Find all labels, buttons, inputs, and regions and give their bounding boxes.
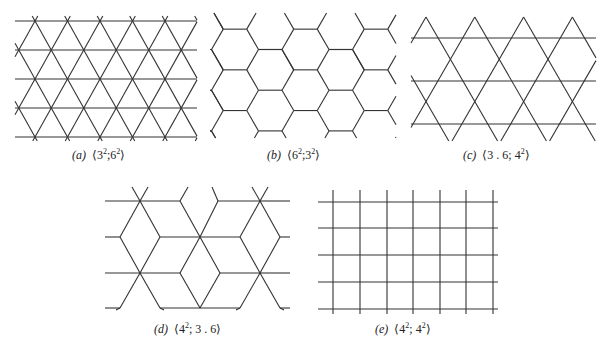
tiling-edge [212,90,224,110]
tiling-edge [260,187,268,201]
tiling-edge [15,16,38,57]
caption-d: (d) ⟨42; 3 . 6⟩ [154,322,221,337]
tiling-edge [282,131,286,138]
tiling-edge [325,131,329,138]
caption-b: (b) ⟨62;32⟩ [267,148,320,163]
tiling-edge [353,50,365,70]
tiling-edge [120,237,140,273]
tiling-edge [317,70,329,90]
tiling-edge [247,90,259,110]
tiling-edge [15,43,70,141]
tiling-edge [212,111,224,131]
tiling-edge [426,17,498,141]
tiling-edge [501,17,573,141]
tiling-edge [162,16,197,78]
tiling-edge [140,187,148,201]
caption-a-label: (a) [72,148,86,162]
tiling-edge [317,111,329,131]
tiling-edge [212,29,224,49]
tiling-edge [180,273,200,308]
tiling-edge [163,80,197,141]
caption-e-label: (e) [375,322,388,336]
tiling-edge [140,273,160,308]
tiling-edge [212,187,218,201]
tiling-edge [395,137,396,138]
tiling-edge [282,90,294,110]
caption-c: (c) ⟨3 . 6; 42⟩ [463,148,530,163]
tiling-edge [452,17,524,141]
tiling-edge [411,17,426,43]
tiling-edge [200,273,220,308]
tiling-edge [260,237,280,273]
tiling-edge [15,101,37,141]
caption-c-label: (c) [463,148,476,162]
tiling-edge [260,273,280,308]
tiling-edge [212,131,216,138]
tiling-edge [282,70,294,90]
tiling-edge [353,70,365,90]
tiling-a-triangular [15,16,197,141]
tiling-edge [388,15,396,29]
tiling-edge [140,237,160,273]
tiling-edge [353,111,365,131]
caption-b-label: (b) [267,148,281,162]
tiling-edge [247,111,259,131]
tiling-edge [212,70,224,90]
tiling-edge [120,201,140,237]
tiling-edge [120,273,140,308]
tiling-edge [388,96,396,110]
tiling-edge [550,61,596,141]
tiling-edge [317,29,329,49]
tiling-edge [411,76,449,141]
tiling-edge [282,29,294,49]
tiling-edge [475,17,547,141]
caption-a: (a) ⟨32;62⟩ [72,148,125,163]
tiling-edge [200,237,220,273]
tiling-edge [388,56,396,70]
tiling-edge [317,90,329,110]
tiling-edge [317,13,326,29]
caption-d-label: (d) [154,322,168,336]
tiling-edge [572,17,596,58]
tiling-e-square-grid [318,190,498,314]
tiling-edge [353,29,365,49]
tiling-edge [247,29,259,49]
tiling-d-rhombus [105,187,290,310]
tiling-edge [317,50,329,70]
tiling-edge [388,111,396,125]
tiling-edge [240,273,260,308]
tiling-edge [130,22,197,141]
tiling-edge [353,90,365,110]
tiling-edge [388,29,396,43]
tiling-b-hexagonal [210,13,396,138]
tiling-edge [524,17,596,141]
tiling-edge [180,237,200,273]
tiling-edge [353,131,357,138]
tiling-edge [240,201,260,237]
tiling-edge [180,187,188,201]
tiling-edge [247,13,256,29]
tiling-edge [15,16,70,115]
tiling-edge [282,111,294,131]
tiling-edge [195,138,197,141]
tiling-edge [247,50,259,70]
tilings-figure [0,0,601,345]
tiling-edge [180,201,200,237]
tiling-c-kagome [411,17,596,141]
tiling-edge [284,13,293,29]
tiling-edge [282,50,294,70]
tiling-edge [200,201,218,237]
tiling-edge [388,70,396,84]
tiling-edge [252,187,260,201]
tiling-edge [212,50,224,70]
tiling-edge [260,201,280,237]
tiling-edge [411,17,475,128]
tiling-edge [247,70,259,90]
caption-e: (e) ⟨42; 42⟩ [375,322,431,337]
tiling-edge [132,187,140,201]
tiling-edge [355,13,364,29]
tiling-edge [240,237,260,273]
tiling-edge [254,131,258,138]
tiling-edge [140,201,160,237]
tiling-edge [195,16,197,20]
